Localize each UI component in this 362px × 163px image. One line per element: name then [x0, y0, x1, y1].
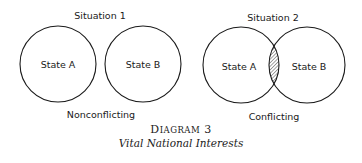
situation-2: Situation 2 State A State B Conflicting [203, 12, 345, 122]
situation-1-caption: Nonconflicting [67, 109, 135, 120]
diagram-number: DIAGRAM 3 [150, 123, 211, 136]
state-a-label: State A [41, 59, 76, 70]
state-a-label: State A [222, 61, 257, 72]
diagram-canvas: Situation 1 State A State B Nonconflicti… [0, 0, 362, 163]
situation-1: Situation 1 State A State B Nonconflicti… [20, 10, 181, 120]
situation-1-title: Situation 1 [74, 10, 126, 21]
state-b-label: State B [292, 61, 327, 72]
situation-2-caption: Conflicting [249, 111, 300, 122]
figure-caption: DIAGRAM 3 Vital National Interests [119, 123, 244, 149]
diagram-title: Vital National Interests [119, 137, 244, 149]
state-b-label: State B [126, 59, 161, 70]
situation-2-title: Situation 2 [247, 12, 299, 23]
